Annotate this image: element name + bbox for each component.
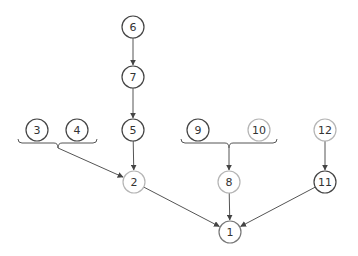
node-label: 4 (74, 124, 81, 137)
node-8: 8 (218, 171, 240, 193)
node-1: 1 (219, 221, 241, 243)
node-11: 11 (314, 171, 336, 193)
node-10: 10 (248, 119, 270, 141)
node-9: 9 (187, 119, 209, 141)
edge-11-to-1 (241, 187, 316, 226)
node-label: 2 (131, 176, 138, 189)
node-label: 8 (226, 176, 233, 189)
node-7: 7 (122, 66, 144, 88)
node-6: 6 (122, 16, 144, 38)
node-4: 4 (66, 119, 88, 141)
node-label: 9 (195, 124, 202, 137)
edge-2-to-1 (144, 187, 220, 226)
edge-group-3-4-to-2 (58, 148, 123, 177)
node-label: 10 (252, 124, 266, 137)
node-label: 5 (130, 124, 137, 137)
node-label: 3 (34, 124, 41, 137)
nodes: 123456789101112 (26, 16, 336, 243)
node-label: 7 (130, 71, 137, 84)
node-label: 12 (318, 124, 332, 137)
group-brace (18, 139, 97, 148)
group-braces (18, 139, 277, 148)
node-label: 11 (318, 176, 332, 189)
edge-5-to-2 (133, 141, 134, 170)
node-2: 2 (123, 171, 145, 193)
node-label: 1 (227, 226, 234, 239)
node-12: 12 (314, 119, 336, 141)
tree-diagram: 123456789101112 (0, 0, 358, 256)
node-label: 6 (130, 21, 137, 34)
node-3: 3 (26, 119, 48, 141)
node-5: 5 (122, 119, 144, 141)
edge-8-to-1 (229, 193, 230, 220)
